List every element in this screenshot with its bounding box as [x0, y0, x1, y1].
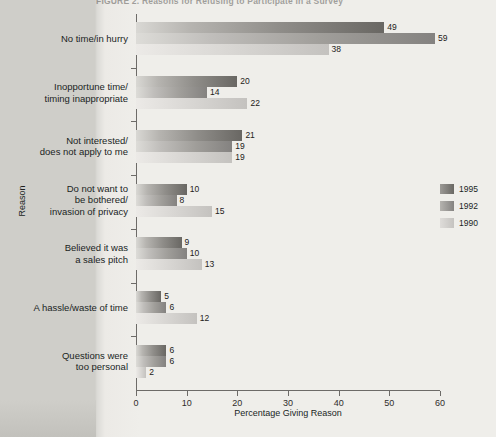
category-label-line: a sales pitch: [0, 254, 128, 266]
bar-1995-4: [136, 237, 182, 248]
bar-1992-0: [136, 33, 435, 44]
bar-value-label: 6: [169, 302, 174, 313]
bar-value-label: 15: [215, 206, 224, 217]
category-label: Not interested/does not apply to me: [0, 135, 128, 158]
bar-1990-0: [136, 44, 329, 55]
bar-value-label: 19: [235, 152, 244, 163]
x-axis-tick: [237, 391, 238, 396]
legend-item-1995: 1995: [440, 182, 478, 196]
category-label-line: Questions were: [0, 350, 128, 362]
bar-1990-4: [136, 259, 202, 270]
bar-1992-3: [136, 195, 177, 206]
category-label: Believed it wasa sales pitch: [0, 242, 128, 265]
bar-value-label: 13: [205, 259, 214, 270]
legend-swatch: [440, 218, 454, 228]
x-axis-tick-label: 10: [182, 398, 192, 408]
category-label: A hassle/waste of time: [0, 302, 128, 314]
bar-value-label: 59: [438, 33, 447, 44]
x-axis-tick-label: 30: [283, 398, 293, 408]
x-axis-tick: [288, 391, 289, 396]
figure-page: FIGURE 2. Reasons for Refusing to Partic…: [0, 0, 496, 437]
category-label: Questions weretoo personal: [0, 350, 128, 373]
x-axis-tick: [440, 391, 441, 396]
bar-1992-2: [136, 141, 232, 152]
bar-value-label: 10: [190, 184, 199, 195]
bar-1995-2: [136, 130, 242, 141]
x-axis-tick-label: 40: [334, 398, 344, 408]
bar-value-label: 8: [180, 195, 185, 206]
y-axis-tick: [131, 68, 136, 69]
category-label-line: timing inappropriate: [0, 93, 128, 105]
legend-swatch: [440, 184, 454, 194]
x-axis-tick-label: 60: [435, 398, 445, 408]
legend-label: 1992: [459, 201, 478, 211]
x-axis-tick-label: 0: [133, 398, 138, 408]
x-axis-tick: [187, 391, 188, 396]
category-label: Inopportune time/timing inappropriate: [0, 81, 128, 104]
bar-1990-5: [136, 313, 197, 324]
category-label: No time/in hurry: [0, 33, 128, 45]
bar-1995-1: [136, 76, 237, 87]
bar-value-label: 20: [240, 76, 249, 87]
x-axis-tick-label: 20: [232, 398, 242, 408]
bar-1992-5: [136, 302, 166, 313]
x-axis-tick-label: 50: [384, 398, 394, 408]
y-axis-tick: [131, 121, 136, 122]
scan-shadow-band: [0, 400, 96, 437]
bar-value-label: 10: [190, 248, 199, 259]
bar-value-label: 49: [387, 22, 396, 33]
bar-value-label: 14: [210, 87, 219, 98]
x-axis-tick: [389, 391, 390, 396]
bar-value-label: 21: [245, 130, 254, 141]
x-axis-title: Percentage Giving Reason: [136, 408, 440, 418]
bar-1995-0: [136, 22, 384, 33]
bar-value-label: 9: [185, 237, 190, 248]
bar-1992-6: [136, 356, 166, 367]
legend-swatch: [440, 201, 454, 211]
bar-1990-2: [136, 152, 232, 163]
bar-1995-5: [136, 291, 161, 302]
bar-value-label: 38: [332, 44, 341, 55]
y-axis-tick: [131, 283, 136, 284]
bar-1992-4: [136, 248, 187, 259]
legend-label: 1995: [459, 184, 478, 194]
x-axis-tick: [339, 391, 340, 396]
category-label-line: Inopportune time/: [0, 81, 128, 93]
bar-value-label: 2: [149, 367, 154, 378]
bar-1990-1: [136, 98, 247, 109]
y-axis-tick: [131, 229, 136, 230]
category-label-line: too personal: [0, 361, 128, 373]
legend: 199519921990: [440, 182, 478, 233]
plot-area: 0102030405060495938No time/in hurry20142…: [136, 14, 440, 390]
bar-1990-6: [136, 367, 146, 378]
x-axis-tick: [136, 391, 137, 396]
bar-1990-3: [136, 206, 212, 217]
bar-value-label: 19: [235, 141, 244, 152]
category-label-line: does not apply to me: [0, 146, 128, 158]
bar-value-label: 12: [200, 313, 209, 324]
bar-value-label: 22: [250, 98, 259, 109]
legend-item-1992: 1992: [440, 199, 478, 213]
figure-title: FIGURE 2. Reasons for Refusing to Partic…: [96, 0, 436, 6]
category-label-line: Not interested/: [0, 135, 128, 147]
category-label-line: No time/in hurry: [0, 33, 128, 45]
bar-1995-3: [136, 184, 187, 195]
legend-item-1990: 1990: [440, 216, 478, 230]
y-axis-tick: [131, 175, 136, 176]
category-label-line: Believed it was: [0, 242, 128, 254]
y-axis-title: Reason: [17, 171, 27, 231]
y-axis-tick: [131, 336, 136, 337]
bar-value-label: 6: [169, 356, 174, 367]
bar-value-label: 5: [164, 291, 169, 302]
bar-1992-1: [136, 87, 207, 98]
bar-1995-6: [136, 345, 166, 356]
bar-value-label: 6: [169, 345, 174, 356]
legend-label: 1990: [459, 218, 478, 228]
category-label-line: A hassle/waste of time: [0, 302, 128, 314]
